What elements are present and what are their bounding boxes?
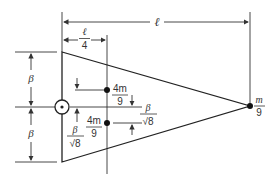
lower-mass-dot: [104, 120, 110, 126]
lower-beta-label: β: [27, 127, 34, 139]
left-offset-num: β: [72, 124, 78, 135]
right-offset-num: β: [145, 102, 151, 113]
quarter-num: ℓ: [82, 26, 86, 37]
lower-mass-num: 4m: [87, 115, 101, 126]
apex-mass-num: m: [255, 94, 262, 105]
quarter-den: 4: [82, 40, 88, 51]
apex-mass-dot: [247, 103, 253, 109]
apex-mass-den: 9: [256, 107, 262, 118]
upper-beta-label: β: [27, 72, 34, 84]
upper-mass-num: 4m: [113, 83, 127, 94]
lower-mass-den: 9: [91, 128, 97, 139]
length-label: ℓ: [155, 15, 160, 29]
pivot-center-dot: [60, 105, 63, 108]
left-offset-den: √8: [69, 138, 80, 149]
upper-mass-dot: [104, 87, 110, 93]
right-offset-den: √8: [142, 116, 153, 127]
diagram-canvas: ℓ ℓ 4 β β 4m 9 4m 9 β √8 β √8 m 9: [0, 0, 277, 174]
upper-mass-den: 9: [117, 96, 123, 107]
